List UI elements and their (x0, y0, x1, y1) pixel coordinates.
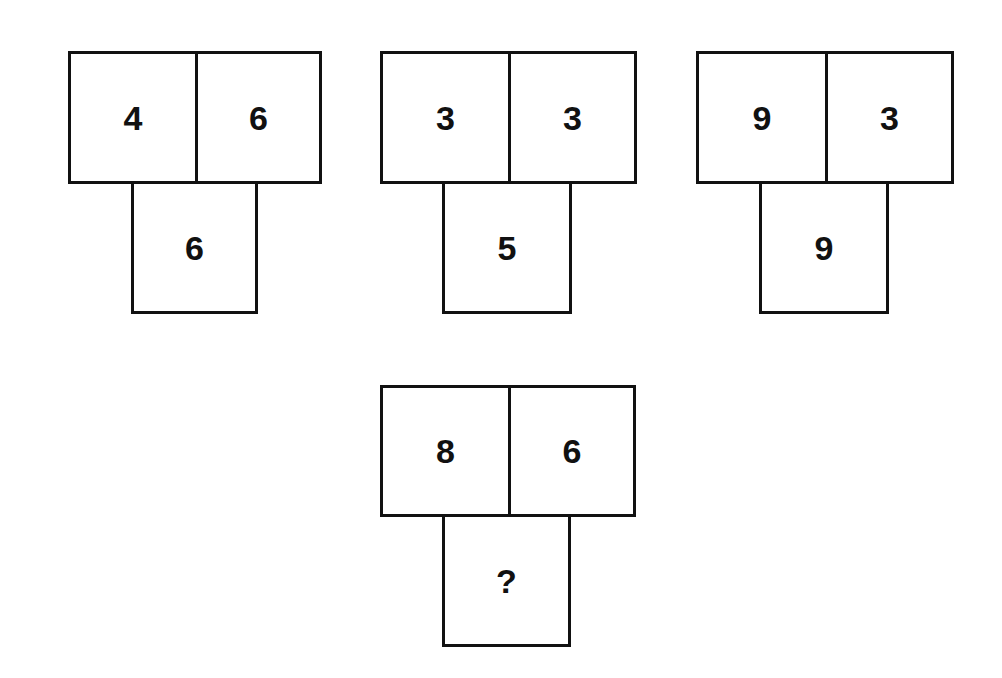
answer-cell: ? (442, 514, 571, 647)
example-puzzle-1: 4 6 6 (68, 51, 322, 314)
cell-number: 4 (124, 101, 143, 135)
top-left-cell: 9 (696, 51, 828, 184)
top-left-cell: 3 (380, 51, 511, 184)
cell-number: 6 (563, 434, 582, 468)
cell-number: 6 (249, 101, 268, 135)
question-puzzle: 8 6 ? (380, 385, 636, 647)
cell-number: 9 (753, 101, 772, 135)
cell-number: 9 (815, 231, 834, 265)
top-right-cell: 3 (508, 51, 637, 184)
cell-number: 3 (880, 101, 899, 135)
top-left-cell: 8 (380, 385, 511, 517)
cell-number: 5 (498, 231, 517, 265)
example-puzzle-3: 9 3 9 (696, 51, 954, 314)
example-puzzle-2: 3 3 5 (380, 51, 637, 314)
top-right-cell: 3 (825, 51, 954, 184)
cell-number: 3 (436, 101, 455, 135)
top-left-cell: 4 (68, 51, 198, 184)
cell-number: 3 (563, 101, 582, 135)
bottom-cell: 5 (442, 181, 572, 314)
bottom-cell: 6 (131, 181, 258, 314)
bottom-cell: 9 (759, 181, 889, 314)
top-right-cell: 6 (195, 51, 322, 184)
cell-number: 8 (436, 434, 455, 468)
question-mark: ? (496, 564, 517, 598)
top-right-cell: 6 (508, 385, 636, 517)
cell-number: 6 (185, 231, 204, 265)
